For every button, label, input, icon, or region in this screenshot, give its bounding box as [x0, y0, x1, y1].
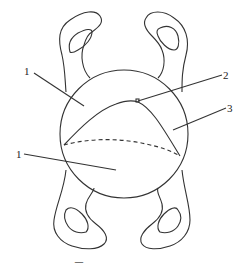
figure-caption: 图 14.2 …… ……: [0, 256, 242, 263]
inner-loop-bottom-left: [65, 208, 88, 233]
diagram: 1 2 3 1: [0, 0, 242, 263]
label-2: 2: [223, 69, 229, 81]
inner-dashed-curve: [64, 140, 180, 156]
label-1-lower: 1: [16, 148, 22, 160]
outer-loop-top-left: [60, 12, 102, 92]
outer-loop-bottom-right: [141, 170, 190, 249]
label-3: 3: [227, 102, 233, 114]
inner-loop-top-left: [69, 29, 92, 52]
central-circle: [60, 70, 188, 198]
leader-line-1: [34, 73, 84, 106]
outer-loop-top-right: [144, 12, 187, 92]
leader-line-2: [138, 75, 222, 101]
leader-line-3: [173, 108, 226, 130]
outer-loop-bottom-left: [54, 170, 107, 249]
label-1-upper: 1: [24, 65, 30, 77]
